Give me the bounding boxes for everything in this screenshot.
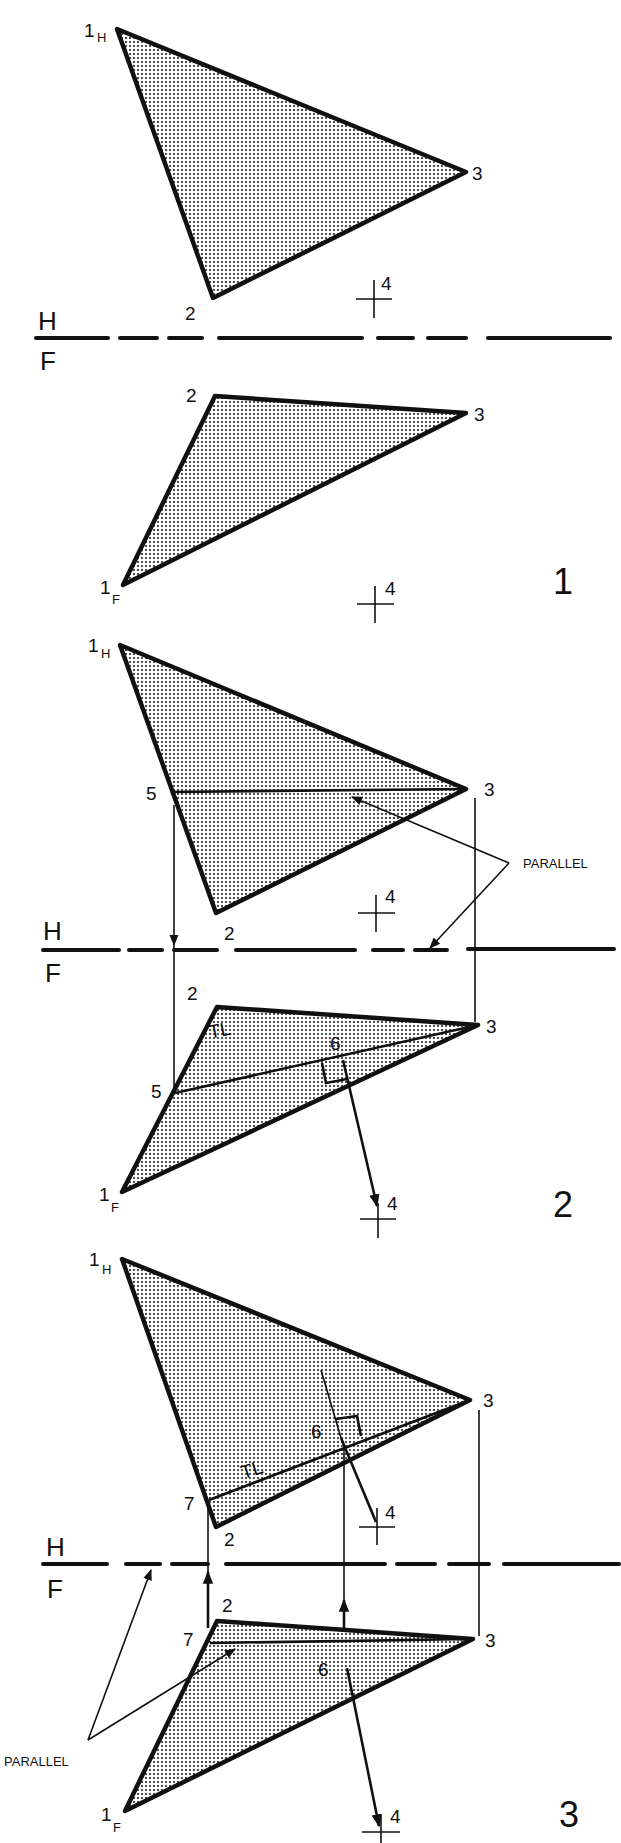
- panel-number-3: 3: [559, 1794, 579, 1835]
- point-label-4: 4: [387, 1193, 398, 1214]
- vertex-label-3: 3: [474, 404, 485, 425]
- vertex-label-6: 6: [318, 1659, 329, 1680]
- fold-line-hf: [43, 949, 614, 950]
- vertex-label-5: 5: [151, 1081, 162, 1102]
- fold-label-f: F: [45, 958, 61, 988]
- triangle-front-view: [123, 396, 466, 585]
- triangle-front-view: [122, 1007, 478, 1192]
- vertex-label-1: 1: [99, 1184, 110, 1205]
- vertex-label-1: 1: [101, 1804, 112, 1825]
- panel-number-1: 1: [553, 561, 573, 602]
- vertex-label-6: 6: [311, 1421, 322, 1442]
- panel-2: 1 H 3 5 2 4 PARALLEL H F: [43, 635, 614, 1238]
- point-label-4: 4: [385, 578, 396, 599]
- vertex-label-1: 1: [88, 635, 99, 656]
- fold-label-h: H: [43, 916, 62, 946]
- vertex-label-1: 1: [100, 577, 111, 598]
- vertex-subscript-h: H: [102, 1262, 111, 1277]
- panel-3: TL 1 H 3 6 7 2 4 H F: [4, 1249, 619, 1843]
- leader-arrow-to-fold-line: [430, 863, 509, 948]
- vertex-label-1: 1: [84, 20, 95, 41]
- vertex-label-2: 2: [224, 1529, 235, 1550]
- vertex-subscript-h: H: [97, 30, 106, 45]
- vertex-label-2: 2: [222, 1595, 233, 1616]
- vertex-label-3: 3: [483, 1390, 494, 1411]
- vertex-label-3: 3: [472, 163, 483, 184]
- vertex-label-7: 7: [183, 1629, 194, 1650]
- vertex-subscript-f: F: [112, 592, 120, 607]
- vertex-label-3: 3: [486, 1016, 497, 1037]
- point-label-4: 4: [390, 1806, 401, 1827]
- triangle-horizontal-view: [122, 1259, 470, 1527]
- annotation-parallel: PARALLEL: [4, 1754, 69, 1769]
- vertex-subscript-f: F: [111, 1200, 119, 1215]
- vertex-label-2: 2: [224, 923, 235, 944]
- vertex-subscript-h: H: [101, 646, 110, 661]
- panel-1: 1 H 3 2 4 H F 2 3 1 F 4 1: [36, 20, 610, 623]
- triangle-horizontal-view: [117, 29, 466, 298]
- fold-label-f: F: [40, 346, 56, 376]
- leader-arrow-to-fold-line: [88, 1570, 151, 1740]
- vertex-label-6: 6: [330, 1033, 341, 1054]
- triangle-front-view: [125, 1621, 473, 1811]
- vertex-label-2: 2: [185, 303, 196, 324]
- fold-label-h: H: [38, 306, 57, 336]
- triangle-horizontal-view: [120, 645, 466, 913]
- vertex-subscript-f: F: [113, 1820, 121, 1835]
- vertex-label-7: 7: [184, 1493, 195, 1514]
- fold-label-h: H: [46, 1532, 65, 1562]
- annotation-parallel: PARALLEL: [523, 856, 588, 871]
- vertex-label-3: 3: [485, 1630, 496, 1651]
- point-label-4: 4: [385, 886, 396, 907]
- vertex-label-3: 3: [484, 779, 495, 800]
- point-label-4: 4: [381, 273, 392, 294]
- vertex-label-2: 2: [187, 983, 198, 1004]
- point-label-4: 4: [385, 1502, 396, 1523]
- fold-label-f: F: [47, 1574, 63, 1604]
- panel-number-2: 2: [553, 1184, 573, 1225]
- vertex-label-5: 5: [146, 783, 157, 804]
- vertex-label-2: 2: [186, 385, 197, 406]
- vertex-label-1: 1: [89, 1249, 100, 1270]
- diagram-canvas: 1 H 3 2 4 H F 2 3 1 F 4 1: [0, 0, 621, 1843]
